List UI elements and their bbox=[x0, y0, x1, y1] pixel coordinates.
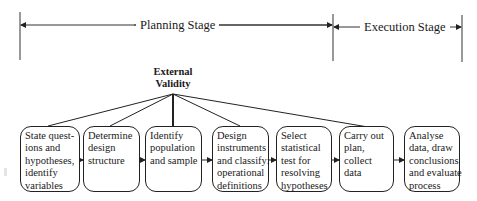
planning-stage-label: Planning Stage bbox=[136, 18, 219, 32]
step-carry-out-plan: Carry out plan, collect data bbox=[339, 126, 394, 192]
execution-stage-label: Execution Stage bbox=[360, 20, 450, 34]
step-text: data, draw bbox=[409, 142, 456, 154]
step-text: structure bbox=[88, 155, 136, 167]
step-select-test: Select statistical test for resolving hy… bbox=[276, 126, 332, 192]
step-text: operational bbox=[217, 167, 265, 179]
external-validity-line1: External bbox=[138, 66, 208, 78]
step-text: variables bbox=[25, 180, 76, 192]
external-validity-links bbox=[48, 94, 368, 127]
step-text: Design bbox=[217, 130, 265, 142]
step-text: Analyse bbox=[409, 130, 456, 142]
scan-artifact bbox=[4, 168, 7, 176]
step-text: collect bbox=[344, 155, 390, 167]
step-state-questions: State quest- ions and hypotheses, identi… bbox=[20, 126, 80, 192]
step-text: Determine bbox=[88, 130, 136, 142]
step-text: Identify bbox=[150, 130, 198, 142]
step-text: Select bbox=[281, 130, 328, 142]
step-identify-population: Identify population and sample bbox=[145, 126, 202, 192]
step-text: ions and bbox=[25, 142, 76, 154]
step-text: population bbox=[150, 142, 198, 154]
step-text: identify bbox=[25, 167, 76, 179]
step-text: State quest- bbox=[25, 130, 76, 142]
step-design-instruments: Design instruments and classify: operati… bbox=[212, 126, 269, 192]
step-text: hypotheses, bbox=[25, 155, 76, 167]
step-text: process bbox=[409, 180, 456, 192]
step-text: conclusions bbox=[409, 155, 456, 167]
step-analyse-data: Analyse data, draw conclusions and evalu… bbox=[404, 126, 460, 192]
step-text: Carry out bbox=[344, 130, 390, 142]
step-text: statistical bbox=[281, 142, 328, 154]
step-text: instruments bbox=[217, 142, 265, 154]
step-text: hypotheses bbox=[281, 180, 328, 192]
step-text: design bbox=[88, 142, 136, 154]
step-text: plan, bbox=[344, 142, 390, 154]
step-text: data bbox=[344, 167, 390, 179]
external-validity-label: External Validity bbox=[138, 66, 208, 90]
external-validity-line2: Validity bbox=[138, 78, 208, 90]
step-text: definitions bbox=[217, 180, 265, 192]
step-determine-design: Determine design structure bbox=[83, 126, 140, 192]
step-text: and evaluate bbox=[409, 167, 456, 179]
step-text: and sample bbox=[150, 155, 198, 167]
step-text: resolving bbox=[281, 167, 328, 179]
step-text: and classify: bbox=[217, 155, 265, 167]
step-text: test for bbox=[281, 155, 328, 167]
